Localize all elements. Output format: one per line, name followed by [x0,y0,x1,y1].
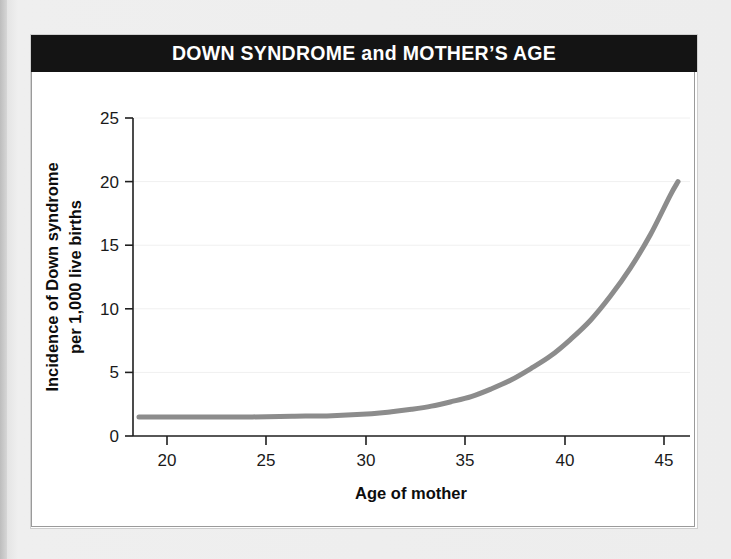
chart-svg: 25 20 15 10 5 0 20 25 30 35 40 45 Age of… [31,72,697,528]
gridlines [133,118,690,372]
x-tick-label-20: 20 [158,451,177,470]
x-tick-label-35: 35 [456,451,475,470]
x-axis-title: Age of mother [355,484,467,502]
y-tick-label-15: 15 [100,236,119,255]
chart-plot-area: 25 20 15 10 5 0 20 25 30 35 40 45 Age of… [31,72,697,528]
x-axis: 20 25 30 35 40 45 [133,436,690,470]
y-tick-label-10: 10 [100,300,119,319]
figure-title: DOWN SYNDROME and MOTHER’S AGE [172,42,556,65]
figure-title-bar: DOWN SYNDROME and MOTHER’S AGE [31,35,697,72]
y-tick-label-20: 20 [100,173,119,192]
incidence-curve [139,182,678,417]
x-tick-label-45: 45 [655,451,674,470]
page-left-edge-shading [0,0,7,559]
y-tick-label-0: 0 [110,427,119,446]
x-tick-label-40: 40 [556,451,575,470]
y-tick-label-5: 5 [110,363,119,382]
x-tick-label-25: 25 [257,451,276,470]
y-tick-label-25: 25 [100,109,119,128]
y-axis-title-line1: Incidence of Down syndrome [43,162,61,391]
y-axis: 25 20 15 10 5 0 [100,109,133,446]
x-tick-label-30: 30 [357,451,376,470]
y-axis-title-line2: per 1,000 live births [66,200,84,354]
